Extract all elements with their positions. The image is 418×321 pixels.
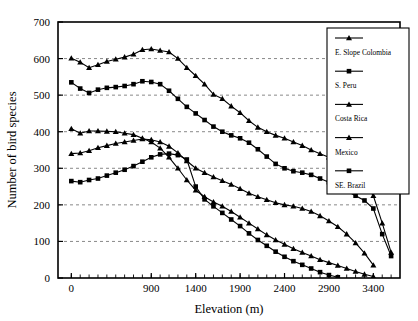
data-point <box>157 145 163 150</box>
data-point <box>290 246 296 251</box>
y-tick-label: 100 <box>34 235 51 247</box>
y-tick-label: 600 <box>34 53 51 65</box>
data-point <box>131 164 136 169</box>
data-point <box>220 129 225 134</box>
data-point <box>327 273 332 278</box>
data-point <box>113 170 118 175</box>
data-point <box>291 259 296 264</box>
data-point <box>96 87 101 92</box>
data-point <box>78 180 83 185</box>
data-point <box>246 190 252 195</box>
data-point <box>309 266 314 271</box>
data-point <box>69 80 74 85</box>
data-point <box>193 184 198 189</box>
data-point <box>69 179 74 184</box>
data-point <box>300 263 305 268</box>
data-point <box>185 157 190 162</box>
chart-canvas: 0900140019002400290034000100200300400500… <box>0 0 418 321</box>
data-point <box>105 86 110 91</box>
data-point <box>158 152 163 157</box>
data-point <box>308 147 314 152</box>
data-point <box>131 82 136 87</box>
x-axis-title: Elevation (m) <box>194 302 263 316</box>
data-point <box>247 140 252 145</box>
data-point <box>96 176 101 181</box>
data-point <box>220 211 225 216</box>
data-point <box>68 126 74 131</box>
data-point <box>264 154 269 159</box>
y-tick-label: 0 <box>45 272 51 284</box>
data-point <box>210 174 216 179</box>
data-point <box>122 167 127 172</box>
data-point <box>256 238 261 243</box>
legend-label: SE. Brazil <box>335 181 365 190</box>
data-point <box>255 226 261 231</box>
chart-figure: 0900140019002400290034000100200300400500… <box>0 0 418 321</box>
legend-label: Costa Rica <box>335 114 368 123</box>
data-point <box>380 232 385 237</box>
data-point <box>229 133 234 138</box>
data-point <box>264 232 270 237</box>
data-point <box>347 169 352 174</box>
data-point <box>140 159 145 164</box>
data-point <box>167 151 172 156</box>
data-point <box>68 55 74 60</box>
data-point <box>113 85 118 90</box>
data-point <box>158 82 163 87</box>
data-point <box>105 173 110 178</box>
data-point <box>389 254 394 259</box>
data-point <box>282 254 287 259</box>
data-point <box>78 86 83 91</box>
data-point <box>336 275 341 280</box>
data-point <box>317 213 323 218</box>
y-tick-label: 400 <box>34 126 51 138</box>
data-point <box>237 186 243 191</box>
data-point <box>309 173 314 178</box>
data-point <box>282 166 287 171</box>
data-point <box>246 220 252 225</box>
data-point <box>237 214 243 219</box>
legend-label: Mexico <box>335 148 358 157</box>
x-tick-label: 2900 <box>318 282 341 294</box>
y-tick-label: 500 <box>34 89 51 101</box>
data-point <box>211 204 216 209</box>
data-point <box>219 96 225 101</box>
data-point <box>326 218 332 223</box>
data-point <box>122 84 127 89</box>
data-point <box>362 198 367 203</box>
y-tick-label: 200 <box>34 199 51 211</box>
data-point <box>318 270 323 275</box>
data-point <box>131 51 137 56</box>
data-point <box>211 124 216 129</box>
data-point <box>176 97 181 102</box>
x-tick-label: 1900 <box>229 282 252 294</box>
data-point <box>210 199 216 204</box>
data-point <box>291 169 296 174</box>
data-point <box>273 249 278 254</box>
x-tick-label: 0 <box>69 282 75 294</box>
data-point <box>238 224 243 229</box>
data-point <box>219 203 225 208</box>
data-point <box>371 206 376 211</box>
data-point <box>247 231 252 236</box>
data-point <box>273 237 279 242</box>
y-tick-label: 700 <box>34 16 51 28</box>
data-point <box>318 176 323 181</box>
x-tick-label: 3400 <box>362 282 385 294</box>
data-point <box>167 88 172 93</box>
y-tick-label: 300 <box>34 162 51 174</box>
data-point <box>149 80 154 85</box>
x-tick-label: 1400 <box>185 282 208 294</box>
data-point <box>202 197 207 202</box>
data-point <box>264 244 269 249</box>
data-point <box>176 153 181 158</box>
data-point <box>149 155 154 160</box>
data-point <box>202 118 207 123</box>
x-tick-label: 2400 <box>274 282 297 294</box>
data-point <box>87 91 92 96</box>
data-point <box>379 220 385 225</box>
data-point <box>300 170 305 175</box>
data-point <box>228 208 234 213</box>
data-point <box>140 79 145 84</box>
data-point <box>87 178 92 183</box>
